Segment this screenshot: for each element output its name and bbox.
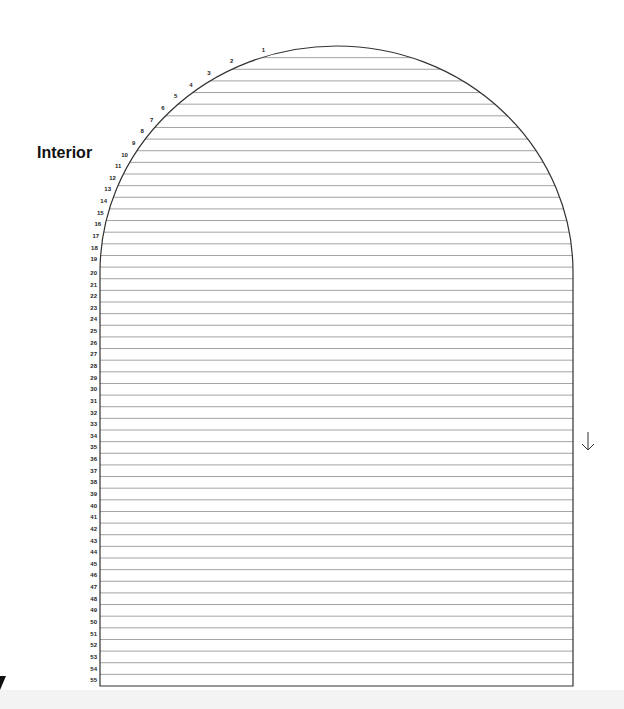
row-label: 15	[97, 210, 104, 216]
row-label: 46	[90, 572, 97, 578]
row-lines	[90, 58, 580, 675]
row-label: 51	[90, 631, 97, 637]
row-label: 31	[90, 398, 97, 404]
row-label: 16	[94, 221, 101, 227]
row-label: 14	[100, 198, 107, 204]
row-label: 49	[90, 607, 97, 613]
row-label: 8	[140, 128, 144, 134]
row-label: 21	[90, 282, 97, 288]
row-label: 17	[92, 233, 99, 239]
row-label: 28	[90, 363, 97, 369]
row-label: 39	[90, 491, 97, 497]
row-label: 5	[174, 93, 178, 99]
down-arrow-icon	[580, 430, 596, 454]
row-label: 55	[90, 677, 97, 683]
row-label: 44	[90, 549, 97, 555]
row-label: 36	[90, 456, 97, 462]
row-label: 33	[90, 421, 97, 427]
row-label: 1	[262, 47, 266, 53]
row-label: 43	[90, 538, 97, 544]
arched-row-diagram: 1234567891011121314151617181920212223242…	[0, 0, 624, 709]
row-label: 23	[90, 305, 97, 311]
row-label: 29	[90, 375, 97, 381]
arch-outline	[100, 46, 573, 686]
row-label: 26	[90, 340, 97, 346]
row-label: 12	[109, 175, 116, 181]
row-label: 19	[90, 256, 97, 262]
row-label: 25	[90, 328, 97, 334]
bottom-strip	[0, 690, 624, 709]
row-label: 9	[132, 140, 136, 146]
row-label: 50	[90, 619, 97, 625]
row-label: 47	[90, 584, 97, 590]
row-label: 42	[90, 526, 97, 532]
row-label: 22	[90, 293, 97, 299]
row-label: 4	[189, 82, 193, 88]
row-label: 35	[90, 444, 97, 450]
row-label: 54	[90, 666, 97, 672]
row-labels: 1234567891011121314151617181920212223242…	[90, 47, 266, 683]
row-label: 20	[90, 270, 97, 276]
row-label: 24	[90, 316, 97, 322]
row-label: 30	[90, 386, 97, 392]
row-label: 11	[115, 163, 122, 169]
row-label: 32	[90, 410, 97, 416]
row-label: 37	[90, 468, 97, 474]
row-label: 52	[90, 642, 97, 648]
row-label: 18	[91, 245, 98, 251]
row-label: 3	[207, 70, 211, 76]
row-label: 34	[90, 433, 97, 439]
row-label: 6	[161, 105, 165, 111]
row-label: 41	[90, 514, 97, 520]
row-label: 40	[90, 503, 97, 509]
row-label: 45	[90, 561, 97, 567]
row-label: 13	[104, 186, 111, 192]
row-label: 7	[150, 117, 154, 123]
row-label: 10	[121, 152, 128, 158]
row-label: 53	[90, 654, 97, 660]
row-label: 2	[230, 58, 234, 64]
row-label: 27	[90, 351, 97, 357]
row-label: 48	[90, 596, 97, 602]
row-label: 38	[90, 479, 97, 485]
